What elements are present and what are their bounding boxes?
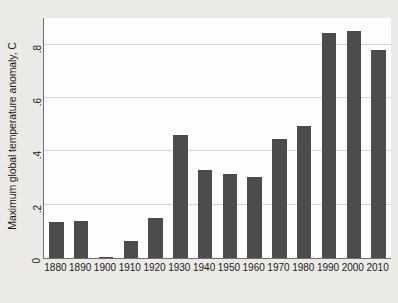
x-axis-tick-label: 1890 (69, 262, 91, 273)
x-axis-tick-label: 1980 (292, 262, 314, 273)
bar (74, 221, 88, 258)
plot-area (43, 18, 391, 259)
x-axis-tick-label: 1900 (94, 262, 116, 273)
y-axis-tick-label: .6 (32, 98, 43, 106)
x-axis-tick-label: 2010 (366, 262, 388, 273)
bar (124, 241, 138, 258)
y-axis-tick-label: .4 (32, 151, 43, 159)
bar (247, 177, 261, 258)
x-axis-tick-label: 1960 (243, 262, 265, 273)
y-axis-title: Maximum global temperature anomaly, C (2, 0, 22, 272)
chart-figure: Maximum global temperature anomaly, C 0.… (0, 0, 398, 303)
bar (198, 170, 212, 258)
bar (347, 31, 361, 258)
y-axis-tick-label: 0 (32, 258, 43, 264)
x-axis-tick-labels: 1880189019001910192019301940195019601970… (43, 262, 390, 278)
bar (99, 257, 113, 258)
bar (223, 174, 237, 258)
bar (173, 135, 187, 258)
x-axis-tick-label: 1940 (193, 262, 215, 273)
x-axis-tick-label: 1970 (267, 262, 289, 273)
bar (322, 33, 336, 258)
x-axis-tick-label: 1910 (119, 262, 141, 273)
x-axis-tick-label: 1880 (44, 262, 66, 273)
y-axis-tick-labels: 0.2.4.6.8 (22, 0, 38, 303)
bar (371, 50, 385, 258)
bar (297, 126, 311, 258)
bar (49, 222, 63, 258)
x-axis-tick-label: 1950 (218, 262, 240, 273)
y-axis-tick-label: .8 (32, 45, 43, 53)
bar (272, 139, 286, 258)
x-axis-tick-label: 1930 (168, 262, 190, 273)
y-axis-tick-label: .2 (32, 205, 43, 213)
bar-series (44, 18, 391, 258)
x-axis-tick-label: 1990 (317, 262, 339, 273)
y-axis-title-text: Maximum global temperature anomaly, C (6, 42, 18, 230)
bar (148, 218, 162, 258)
x-axis-tick-label: 2000 (342, 262, 364, 273)
x-axis-tick-label: 1920 (143, 262, 165, 273)
